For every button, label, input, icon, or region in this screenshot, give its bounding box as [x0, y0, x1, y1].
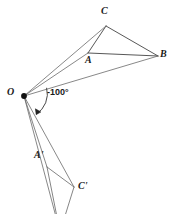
triangle-a-prime-b-prime-c-prime [47, 167, 74, 214]
triangle-abc [88, 26, 158, 56]
point-o-dot [21, 93, 27, 99]
label-b: B [160, 49, 167, 59]
segment-o-cprime [24, 96, 74, 187]
segment-cprime-aprime [47, 167, 74, 187]
radii-image [24, 96, 74, 214]
segment-bprime-cprime [60, 187, 74, 214]
angle-arrowhead [35, 109, 40, 115]
segment-b-c [106, 26, 158, 56]
segment-a-b [88, 53, 158, 56]
label-c: C [101, 6, 108, 16]
label-o: O [7, 87, 14, 97]
label-c-prime: C' [78, 181, 87, 191]
label-a-prime: A' [34, 150, 43, 160]
label-a: A [85, 55, 92, 65]
segment-o-c [24, 26, 106, 96]
rotation-diagram: O A B C A' C' -100° [0, 0, 169, 214]
rotation-angle-label: -100° [47, 88, 69, 97]
